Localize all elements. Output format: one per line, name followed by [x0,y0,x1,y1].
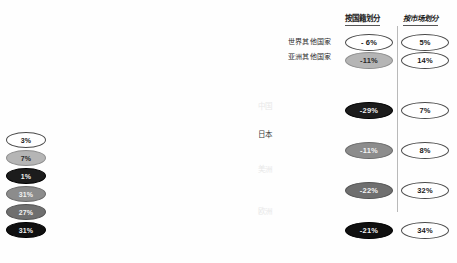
series-label-japan: 日本 [258,128,273,139]
callout-label-rest-of-world: 世界其他国家 [288,36,331,46]
market-cell-2: 7% [401,102,449,119]
market-cell-5: 34% [401,222,449,239]
market-cell-3: 8% [401,142,449,159]
chart-root: 3%7%1%31%27%31% 中国 日本 美洲 欧洲 世界其他国家 亚洲其他国… [0,0,457,263]
column-divider [397,26,398,212]
series-label-americas: 美洲 [258,163,273,174]
nationality-cell-2: -29% [345,102,393,119]
column-header-market: 按市场划分 [403,12,438,26]
market-cell-4: 32% [401,182,449,199]
nationality-cell-4: -22% [345,182,393,199]
column-header-nationality: 按国籍划分 [345,12,380,26]
series-label-europe: 欧洲 [258,205,273,216]
market-cell-0: 5% [401,34,449,51]
x-axis-labels [38,238,368,252]
nationality-cell-5: -21% [345,222,393,239]
callout-label-rest-of-asia: 亚洲其他国家 [288,51,331,61]
nationality-cell-3: -11% [345,142,393,159]
nationality-cell-1: -11% [345,52,393,69]
series-label-china: 中国 [258,100,273,111]
market-cell-1: 14% [401,52,449,69]
nationality-cell-0: - 6% [345,34,393,51]
